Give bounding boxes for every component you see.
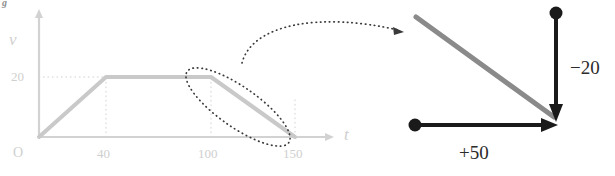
x-tick-label-100: 100 bbox=[198, 147, 218, 160]
graph-vector-diagram-canvas bbox=[0, 0, 615, 176]
vertical-vector-arrow bbox=[549, 7, 563, 123]
vertical-vector-origin-dot bbox=[550, 7, 563, 20]
velocity-profile-line bbox=[39, 77, 295, 137]
v-axis-label: v bbox=[9, 31, 17, 48]
gridlines bbox=[39, 77, 295, 137]
velocity-time-graph-figure: g v t O 20 40 100 150 −20 +50 bbox=[0, 0, 615, 176]
callout-curved-arrow-shaft bbox=[242, 22, 398, 63]
t-axis-arrowhead bbox=[325, 133, 334, 141]
horizontal-vector-origin-dot bbox=[409, 119, 422, 132]
t-axis-label: t bbox=[344, 126, 349, 143]
y-tick-label-20: 20 bbox=[11, 70, 24, 83]
cropped-text-fragment: g bbox=[2, 0, 7, 8]
callout-arrowhead bbox=[393, 27, 404, 35]
vertical-vector-label: −20 bbox=[570, 58, 600, 77]
horizontal-vector-label: +50 bbox=[459, 143, 489, 162]
v-axis-arrowhead bbox=[35, 9, 43, 18]
horizontal-vector-arrow bbox=[409, 118, 559, 132]
origin-label: O bbox=[13, 146, 23, 160]
deceleration-highlight-ellipse bbox=[176, 55, 301, 159]
resultant-hypotenuse-line bbox=[416, 17, 554, 117]
x-tick-label-150: 150 bbox=[283, 147, 303, 160]
x-tick-label-40: 40 bbox=[97, 147, 110, 160]
